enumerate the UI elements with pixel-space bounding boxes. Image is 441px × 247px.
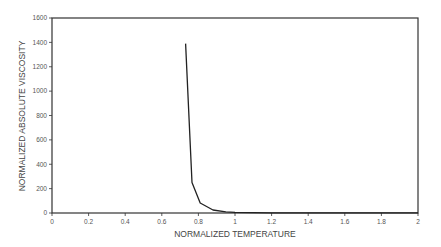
y-tick-label: 1000 [33,87,48,94]
y-tick-label: 800 [36,112,47,119]
x-tick-label: 2 [416,218,420,225]
x-axis-ticks: 00.20.40.60.811.21.41.61.82 [50,213,420,225]
x-tick-label: 0.2 [84,218,93,225]
viscosity-chart: 02004006008001000120014001600 00.20.40.6… [0,0,441,247]
viscosity-curve [186,44,418,213]
x-tick-label: 1 [233,218,237,225]
x-tick-label: 0 [50,218,54,225]
plot-frame [52,18,418,213]
y-tick-label: 200 [36,185,47,192]
x-axis-title: NORMALIZED TEMPERATURE [174,229,296,239]
y-tick-label: 1400 [33,39,48,46]
y-tick-label: 400 [36,161,47,168]
x-tick-label: 0.4 [121,218,130,225]
x-tick-label: 1.4 [304,218,313,225]
plot-border [52,18,418,213]
y-tick-label: 0 [43,209,47,216]
x-tick-label: 1.6 [340,218,349,225]
x-tick-label: 1.2 [267,218,276,225]
y-tick-label: 1600 [33,14,48,21]
x-tick-label: 1.8 [377,218,386,225]
y-tick-label: 1200 [33,63,48,70]
x-tick-label: 0.8 [194,218,203,225]
y-axis-ticks: 02004006008001000120014001600 [33,14,52,216]
x-tick-label: 0.6 [157,218,166,225]
y-axis-title: NORMALIZED ABSOLUTE VISCOSITY [17,40,27,191]
y-tick-label: 600 [36,136,47,143]
